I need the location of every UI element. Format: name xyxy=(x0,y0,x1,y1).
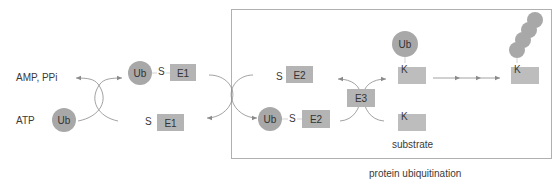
e1-label: E1 xyxy=(177,68,190,79)
free-substrate: K substrate xyxy=(392,111,434,150)
e3-ligase: E3 xyxy=(347,89,375,107)
ub-label: Ub xyxy=(134,68,147,79)
arc-e1-to-ub-e1 xyxy=(95,78,122,121)
arc-ub-e1-to-free-e1 xyxy=(207,75,233,118)
ub-chain-circle-icon xyxy=(509,42,525,58)
ubiquitinated-substrate: Ub K xyxy=(392,31,426,84)
lysine-k-label: K xyxy=(514,64,521,75)
ub-e1-thioester: Ub S E1 xyxy=(128,61,196,85)
thiol-s-label: S xyxy=(145,116,152,127)
free-ubiquitin: Ub xyxy=(52,108,76,132)
thiol-s-label: S xyxy=(289,113,296,124)
diagram-caption: protein ubiquitination xyxy=(369,168,461,179)
lysine-k-label: K xyxy=(401,64,408,75)
thiol-s-label: S xyxy=(158,66,165,77)
e2-label: E2 xyxy=(293,70,306,81)
ub-label: Ub xyxy=(58,115,71,126)
lysine-k-label: K xyxy=(401,111,408,122)
amp-ppi-label: AMP, PPi xyxy=(16,72,58,83)
free-e1: S E1 xyxy=(145,114,184,131)
polyubiquitinated-substrate: K xyxy=(509,12,543,84)
thiol-s-label: S xyxy=(276,71,283,82)
arc-e2-to-ub-e2 xyxy=(231,75,257,118)
e2-label: E2 xyxy=(310,114,323,125)
ubiquitination-diagram: AMP, PPi ATP Ub Ub S E1 S E1 S E2 Ub S E… xyxy=(0,0,560,186)
atp-label: ATP xyxy=(16,115,35,126)
arc-atp-to-amp xyxy=(76,78,103,121)
e1-label: E1 xyxy=(164,118,177,129)
protein-ubiquitination-box xyxy=(232,10,552,159)
substrate-label: substrate xyxy=(392,139,434,150)
e3-label: E3 xyxy=(355,93,368,104)
free-e2: S E2 xyxy=(276,66,313,83)
ub-label: Ub xyxy=(264,114,277,125)
ub-e2-thioester: Ub S E2 xyxy=(258,107,330,131)
ub-label: Ub xyxy=(399,39,412,50)
